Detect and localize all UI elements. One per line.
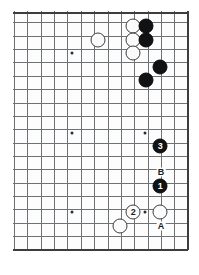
grid-line-col-8 [121, 11, 122, 250]
black-stone[interactable] [139, 19, 154, 34]
grid-line-col-2 [41, 11, 42, 250]
star-center-right-icon [144, 132, 147, 135]
star-upper-left-icon [71, 52, 74, 55]
black-stone-move-3[interactable]: 3 [153, 139, 168, 154]
go-diagram-figure: 312 BA [0, 0, 199, 275]
go-board[interactable]: 312 BA [13, 11, 188, 250]
grid-line-col-12 [174, 11, 175, 250]
black-stone-move-1[interactable]: 1 [153, 179, 168, 194]
black-stone[interactable] [139, 73, 154, 88]
star-center-left-icon [71, 132, 74, 135]
grid-line-col-5 [81, 11, 82, 250]
black-stone[interactable] [139, 33, 154, 48]
label-b: B [157, 168, 166, 177]
stone-move-number: 3 [158, 142, 163, 151]
star-lower-left-icon [71, 211, 74, 214]
grid-line-col-1 [27, 11, 28, 250]
label-a: A [157, 222, 166, 231]
grid-line-col-4 [67, 11, 68, 250]
board-edge-right [187, 11, 189, 250]
white-stone[interactable] [126, 46, 141, 61]
star-lower-right-icon [144, 211, 147, 214]
grid-line-col-7 [108, 11, 109, 250]
grid-line-col-3 [54, 11, 55, 250]
white-stone-move-2[interactable]: 2 [126, 205, 141, 220]
board-edge-bottom [13, 249, 188, 251]
grid-line-col-0 [14, 11, 15, 250]
white-stone[interactable] [153, 205, 168, 220]
white-stone[interactable] [113, 219, 128, 234]
black-stone[interactable] [153, 60, 168, 75]
white-stone[interactable] [91, 33, 106, 48]
stone-move-number: 2 [131, 208, 136, 217]
stone-move-number: 1 [158, 182, 163, 191]
board-edge-top [13, 12, 188, 14]
